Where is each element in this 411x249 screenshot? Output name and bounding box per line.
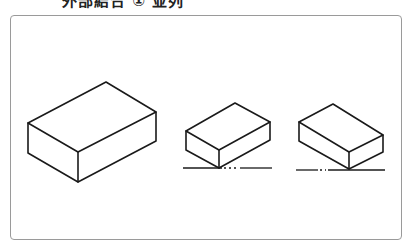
middle-box <box>186 103 270 168</box>
right-box-outline <box>299 104 383 169</box>
isometric-figure <box>0 0 411 249</box>
large-box <box>28 82 156 182</box>
large-box-top-edges <box>28 112 156 152</box>
middle-box-outline <box>186 103 270 168</box>
large-box-outline <box>28 82 156 182</box>
right-box <box>299 104 383 169</box>
middle-box-top-edges <box>186 122 270 150</box>
